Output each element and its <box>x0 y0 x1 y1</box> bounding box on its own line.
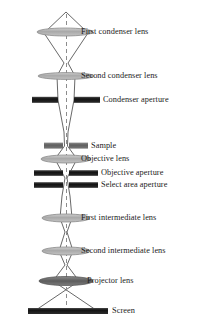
tem-ray-diagram: First condenser lens Second condenser le… <box>0 0 199 329</box>
beam-segment-source-to-c1-right <box>66 12 88 63</box>
sample-right-blade[interactable] <box>69 143 88 149</box>
label-objective-lens: Objective lens <box>81 154 129 163</box>
screen-glyph[interactable] <box>28 308 108 314</box>
label-second-condenser-lens: Second condenser lens <box>81 71 158 80</box>
beam-segment-c1-to-c2-left <box>57 63 64 100</box>
label-select-area-aperture: Select area aperture <box>101 180 167 189</box>
select-area-aperture-left-blade[interactable] <box>34 182 63 188</box>
label-first-intermediate-lens: First intermediate lens <box>81 213 156 222</box>
beam-segment-aperture-to-sample-right <box>68 100 75 146</box>
label-sample: Sample <box>91 141 116 150</box>
projector-lens-glyph[interactable] <box>39 277 93 286</box>
label-projector-lens: Projector lens <box>87 276 134 285</box>
label-second-intermediate-lens: Second intermediate lens <box>81 246 166 255</box>
objective-aperture-right-blade[interactable] <box>69 170 98 176</box>
label-screen: Screen <box>112 306 135 315</box>
label-objective-aperture: Objective aperture <box>101 168 163 177</box>
label-first-condenser-lens: First condenser lens <box>81 27 148 36</box>
select-area-aperture-right-blade[interactable] <box>69 182 98 188</box>
label-condenser-aperture: Condenser aperture <box>103 95 169 104</box>
beam-segment-c1-to-c2-right <box>68 63 75 100</box>
condenser-aperture-left-blade[interactable] <box>32 97 58 103</box>
beam-segment-source-to-c1 <box>44 12 66 63</box>
objective-aperture-left-blade[interactable] <box>34 170 63 176</box>
beam-segment-aperture-to-sample-left <box>58 100 65 146</box>
sample-left-blade[interactable] <box>44 143 63 149</box>
condenser-aperture-right-blade[interactable] <box>74 97 100 103</box>
